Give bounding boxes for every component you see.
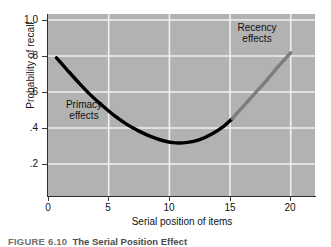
x-tick-label-20: 20 [278, 203, 302, 213]
figure-caption-title: The Serial Position Effect [73, 236, 188, 247]
x-tick-label-5: 5 [96, 203, 120, 213]
y-tick-label-0-4: .4 [12, 123, 38, 133]
figure-caption: FIGURE 6.10 The Serial Position Effect [8, 236, 328, 247]
series-recency-line [232, 53, 290, 119]
y-tick-label-1-0: 1.0 [12, 15, 38, 25]
x-tick-label-10: 10 [157, 203, 181, 213]
x-axis-line [47, 196, 316, 197]
annotation-recency: Recency effects [226, 22, 288, 44]
annotation-recency-line1: Recency [226, 22, 288, 33]
annotation-primacy-line2: effects [55, 110, 113, 121]
x-tick-label-15: 15 [218, 203, 242, 213]
data-series-group [57, 53, 291, 143]
x-tick-mark-0 [48, 196, 49, 201]
annotation-recency-line2: effects [226, 33, 288, 44]
y-axis-line [47, 14, 48, 196]
x-tick-label-0: 0 [36, 203, 60, 213]
x-tick-mark-15 [230, 196, 231, 201]
y-tick-label-0-8: .8 [12, 51, 38, 61]
annotation-primacy-line1: Primacy [55, 99, 113, 110]
annotation-primacy: Primacy effects [55, 99, 113, 121]
x-tick-mark-5 [108, 196, 109, 201]
y-tick-label-0-2: .2 [12, 159, 38, 169]
x-axis-title: Serial position of items [48, 216, 316, 227]
plot-area: Primacy effects Recency effects [48, 14, 315, 196]
x-tick-mark-10 [169, 196, 170, 201]
figure-root: Probability of recall 1.0 .8 .6 .4 .2 [0, 0, 331, 247]
figure-caption-label: FIGURE 6.10 [8, 236, 67, 247]
y-tick-label-0-6: .6 [12, 87, 38, 97]
x-tick-mark-20 [290, 196, 291, 201]
